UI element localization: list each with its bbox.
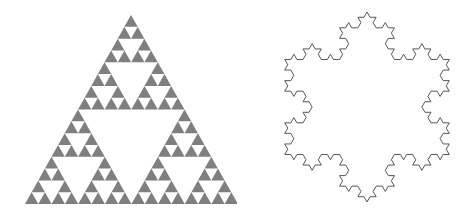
sierpinski-triangle-panel (0, 0, 237, 219)
koch-snowflake-figure (237, 0, 474, 219)
koch-snowflake-panel (237, 0, 474, 219)
sierpinski-triangles (25, 15, 237, 204)
sierpinski-triangle-figure (0, 0, 237, 219)
koch-snowflake-outline (285, 12, 450, 202)
